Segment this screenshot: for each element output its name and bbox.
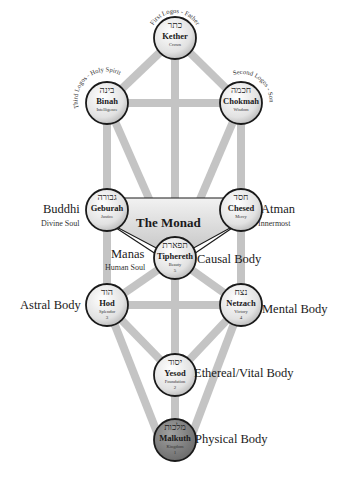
causal-body-label: Causal Body [197,252,261,267]
sephira-name: Hod [85,299,129,308]
sephira-name: Geburah [85,204,129,213]
manas-sublabel: Human Soul [105,263,145,272]
sephira-meaning: Crown [153,43,197,48]
node-chesed-text: חסדChesedMercy [219,193,263,219]
node-chokmah-text: חכמהChokmahWisdom [219,86,263,112]
sephira-name: Tiphereth [153,252,197,261]
hebrew-name: בינה [85,86,129,95]
sephira-meaning: Victory [219,310,263,315]
sephira-number: 3 [85,315,129,320]
sephira-meaning: Mercy [219,215,263,220]
mental-body-label: Mental Body [262,302,328,317]
hebrew-name: חסד [219,193,263,202]
sephira-number: 1 [153,450,197,455]
hebrew-name: נצח [219,288,263,297]
ethereal-body-label: Ethereal/Vital Body [194,366,294,381]
node-malkuth-text: מלכותMalkuthKingdom1 [153,423,197,455]
hebrew-name: מלכות [153,423,197,432]
physical-body-label: Physical Body [195,432,268,447]
sephira-meaning: Intelligence [85,108,129,113]
hebrew-name: יסוד [153,358,197,367]
sephira-meaning: Kingdom [153,445,197,450]
buddhi-label: Buddhi [43,202,80,217]
sephira-name: Kether [153,32,197,41]
node-netzach-text: נצחNetzachVictory4 [219,288,263,320]
node-kether-text: כתרKetherCrown [153,21,197,47]
sephira-name: Binah [85,97,129,106]
sephira-number: 4 [219,315,263,320]
astral-body-label: Astral Body [20,298,81,313]
sephira-number: 2 [153,385,197,390]
sephira-meaning: Foundation [153,380,197,385]
monad-label: The Monad [136,215,201,231]
hebrew-name: כתר [153,21,197,30]
sephira-meaning: Splendor [85,310,129,315]
hebrew-name: תפארת [153,241,197,250]
node-hod-text: הודHodSplendor3 [85,288,129,320]
sephira-meaning: Beauty [153,263,197,268]
sephira-name: Malkuth [153,434,197,443]
node-binah-text: בינהBinahIntelligence [85,86,129,112]
hebrew-name: גבורה [85,193,129,202]
hebrew-name: הוד [85,288,129,297]
atman-label: Atman [261,202,295,217]
sephira-number: 5 [153,268,197,273]
sephira-name: Chesed [219,204,263,213]
node-yesod-text: יסודYesodFoundation2 [153,358,197,390]
manas-label: Manas [111,247,144,262]
sephira-name: Yesod [153,369,197,378]
atman-sublabel: Innermost [258,219,290,228]
node-tiphereth-text: תפארתTipherethBeauty5 [153,241,197,273]
node-geburah-text: גבורהGeburahJustice [85,193,129,219]
sephira-name: Chokmah [219,97,263,106]
sephira-name: Netzach [219,299,263,308]
sephira-meaning: Justice [85,215,129,220]
hebrew-name: חכמה [219,86,263,95]
buddhi-sublabel: Divine Soul [41,219,79,228]
sephira-meaning: Wisdom [219,108,263,113]
